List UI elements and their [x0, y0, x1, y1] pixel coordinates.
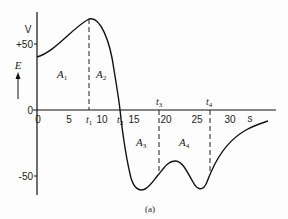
x-tick-label-5: 5 — [66, 114, 72, 125]
x-tick-label-30: 30 — [224, 114, 236, 125]
t3-label: t3 — [156, 96, 163, 109]
region-a2-label: A2 — [95, 68, 107, 82]
x-tick-label-15: 15 — [128, 114, 140, 125]
y-tick-label-neg50: -50 — [19, 171, 34, 182]
y-unit-label: V — [25, 24, 32, 35]
y-tick-label-50: +50 — [16, 39, 33, 50]
x-tick-label-10: 10 — [96, 114, 108, 125]
x-tick-label-25: 25 — [191, 114, 203, 125]
x-tick-label-20: 20 — [160, 114, 172, 125]
data-curve — [37, 19, 268, 190]
t4-label: t4 — [206, 96, 213, 109]
t1-label: t1 — [86, 114, 93, 127]
y-tick-label-0: 0 — [27, 105, 33, 116]
region-a1-label: A1 — [56, 68, 68, 82]
x-unit-label: s — [248, 113, 253, 124]
chart: V +50 0 -50 E 0 5 10 15 20 25 30 s t1 t2… — [0, 0, 288, 219]
quantity-label: E — [14, 59, 22, 71]
region-a3-label: A3 — [135, 136, 147, 150]
region-a4-label: A4 — [178, 136, 190, 150]
x-tick-label-0: 0 — [35, 114, 41, 125]
figure-caption: (a) — [145, 204, 155, 214]
arrow-head-icon — [16, 72, 21, 79]
